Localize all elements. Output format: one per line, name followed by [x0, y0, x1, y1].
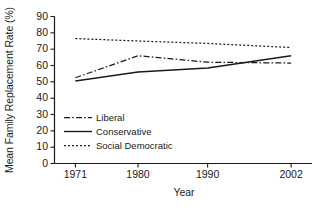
series-line-liberal	[75, 56, 291, 78]
series-line-social-democratic	[75, 39, 291, 48]
x-axis-ticks	[75, 164, 291, 168]
y-tick-label-50: 50	[26, 76, 48, 87]
y-tick-label-80: 80	[26, 27, 48, 38]
y-tick-label-10: 10	[26, 141, 48, 152]
legend-label-liberal: Liberal	[96, 112, 125, 123]
y-tick-label-90: 90	[26, 11, 48, 22]
x-tick-label-2002: 2002	[269, 169, 313, 180]
x-tick-label-1990: 1990	[186, 169, 230, 180]
y-tick-label-70: 70	[26, 43, 48, 54]
legend-label-social-democratic: Social Democratic	[96, 140, 173, 151]
y-axis-title: Mean Family Replacement Rate (%)	[2, 4, 16, 176]
y-tick-label-40: 40	[26, 92, 48, 103]
y-tick-label-30: 30	[26, 109, 48, 120]
y-tick-label-60: 60	[26, 60, 48, 71]
y-tick-label-20: 20	[26, 125, 48, 136]
x-tick-label-1980: 1980	[116, 169, 160, 180]
legend-sample-lines	[64, 118, 92, 146]
y-tick-label-0: 0	[26, 158, 48, 169]
x-tick-label-1971: 1971	[53, 169, 97, 180]
x-axis-title: Year	[56, 186, 312, 199]
legend-label-conservative: Conservative	[96, 126, 151, 137]
chart-figure: Mean Family Replacement Rate (%) Year 90…	[0, 0, 321, 209]
data-series-group	[75, 39, 291, 81]
